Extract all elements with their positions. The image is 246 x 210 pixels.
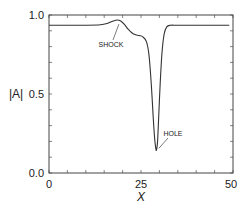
ytick-label-05: 0.5: [29, 88, 44, 100]
xtick-label-25: 25: [135, 178, 147, 190]
ytick-label-1: 1.0: [29, 9, 44, 21]
y-axis-title: |A|: [9, 87, 23, 101]
plot-frame: [49, 15, 233, 173]
xtick-label-50: 50: [225, 178, 237, 190]
minor-ticks: [49, 15, 233, 173]
series-line-abs-A: [49, 20, 229, 150]
line-chart: 1.0 0.5 0.0 0 25 50 X |A| SHOCK HOLE: [0, 0, 246, 210]
x-axis-title: X: [136, 190, 146, 204]
annotation-shock: SHOCK: [99, 41, 124, 48]
xtick-label-0: 0: [46, 178, 52, 190]
annotation-hole: HOLE: [163, 130, 182, 137]
ytick-label-0: 0.0: [29, 167, 44, 179]
